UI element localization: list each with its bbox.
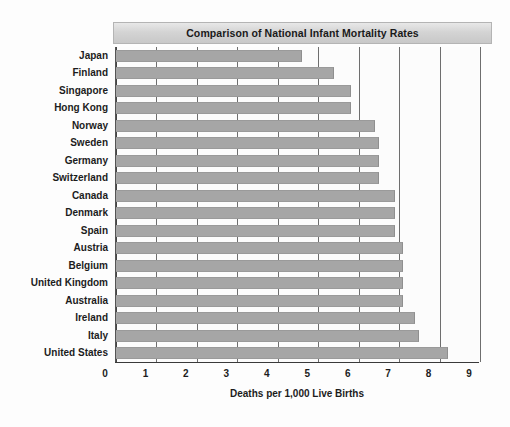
plot-area bbox=[115, 47, 479, 362]
bar-row bbox=[116, 222, 479, 240]
bar-row bbox=[116, 275, 479, 293]
category-label-finland: Finland bbox=[72, 67, 108, 78]
bar-row bbox=[116, 240, 479, 258]
x-tick-4: 4 bbox=[257, 368, 277, 379]
bar-row bbox=[116, 65, 479, 83]
category-label-united-states: United States bbox=[44, 347, 108, 358]
bar-sweden bbox=[116, 137, 379, 149]
category-label-denmark: Denmark bbox=[65, 207, 108, 218]
bar-belgium bbox=[116, 260, 403, 272]
category-label-austria: Austria bbox=[74, 242, 108, 253]
bar-united-kingdom bbox=[116, 277, 403, 289]
bar-row bbox=[116, 345, 479, 363]
bar-row bbox=[116, 187, 479, 205]
bar-austria bbox=[116, 242, 403, 254]
category-label-singapore: Singapore bbox=[59, 85, 108, 96]
x-tick-1: 1 bbox=[135, 368, 155, 379]
bar-row bbox=[116, 152, 479, 170]
chart-title: Comparison of National Infant Mortality … bbox=[186, 27, 419, 39]
bar-finland bbox=[116, 67, 334, 79]
bar-germany bbox=[116, 155, 379, 167]
x-tick-9: 9 bbox=[459, 368, 479, 379]
x-tick-7: 7 bbox=[378, 368, 398, 379]
bar-row bbox=[116, 205, 479, 223]
bar-row bbox=[116, 170, 479, 188]
category-label-belgium: Belgium bbox=[69, 260, 108, 271]
y-axis-category-labels: JapanFinlandSingaporeHong KongNorwaySwed… bbox=[0, 47, 108, 362]
bar-row bbox=[116, 117, 479, 135]
category-label-ireland: Ireland bbox=[75, 312, 108, 323]
bar-row bbox=[116, 327, 479, 345]
category-label-spain: Spain bbox=[81, 225, 108, 236]
bar-row bbox=[116, 82, 479, 100]
gridline-9 bbox=[480, 47, 481, 362]
category-label-japan: Japan bbox=[79, 50, 108, 61]
bar-row bbox=[116, 47, 479, 65]
x-axis-title: Deaths per 1,000 Live Births bbox=[115, 388, 479, 399]
x-tick-2: 2 bbox=[176, 368, 196, 379]
category-label-norway: Norway bbox=[72, 120, 108, 131]
x-tick-5: 5 bbox=[297, 368, 317, 379]
bar-row bbox=[116, 135, 479, 153]
bar-row bbox=[116, 292, 479, 310]
bar-japan bbox=[116, 50, 302, 62]
category-label-united-kingdom: United Kingdom bbox=[31, 277, 108, 288]
bar-row bbox=[116, 257, 479, 275]
category-label-hong-kong: Hong Kong bbox=[54, 102, 108, 113]
bar-row bbox=[116, 100, 479, 118]
bar-rows bbox=[116, 47, 479, 362]
x-tick-0: 0 bbox=[95, 368, 115, 379]
bar-singapore bbox=[116, 85, 351, 97]
bar-australia bbox=[116, 295, 403, 307]
category-label-germany: Germany bbox=[65, 155, 108, 166]
bar-norway bbox=[116, 120, 375, 132]
category-label-italy: Italy bbox=[88, 330, 108, 341]
category-label-switzerland: Switzerland bbox=[52, 172, 108, 183]
bar-denmark bbox=[116, 207, 395, 219]
bar-hong-kong bbox=[116, 102, 351, 114]
category-label-australia: Australia bbox=[65, 295, 108, 306]
bar-switzerland bbox=[116, 172, 379, 184]
bar-italy bbox=[116, 330, 419, 342]
bar-ireland bbox=[116, 312, 415, 324]
bar-canada bbox=[116, 190, 395, 202]
bar-united-states bbox=[116, 347, 448, 359]
x-tick-3: 3 bbox=[216, 368, 236, 379]
category-label-sweden: Sweden bbox=[70, 137, 108, 148]
x-tick-6: 6 bbox=[338, 368, 358, 379]
bar-row bbox=[116, 310, 479, 328]
category-label-canada: Canada bbox=[72, 190, 108, 201]
x-axis-line bbox=[115, 362, 479, 363]
chart-title-band: Comparison of National Infant Mortality … bbox=[113, 22, 492, 44]
x-tick-8: 8 bbox=[419, 368, 439, 379]
bar-spain bbox=[116, 225, 395, 237]
chart-container: Comparison of National Infant Mortality … bbox=[0, 0, 510, 427]
